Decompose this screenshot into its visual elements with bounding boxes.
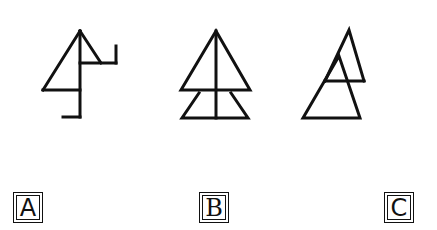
label-box-c: C <box>384 192 414 223</box>
figure-b <box>181 31 250 118</box>
label-a: A <box>20 196 36 220</box>
figure-c <box>303 30 364 118</box>
label-b: B <box>205 196 223 220</box>
label-box-b: B <box>199 192 229 223</box>
figure-a <box>43 31 116 117</box>
label-box-a: A <box>13 192 43 223</box>
label-c: C <box>391 196 408 220</box>
